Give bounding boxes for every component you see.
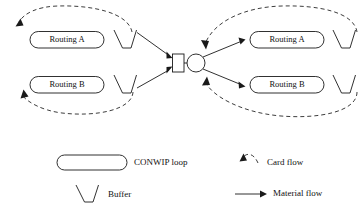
buffer-left-b xyxy=(114,75,137,93)
routing-node-left-b-label: Routing B xyxy=(49,79,85,89)
routing-node-left-b[interactable]: Routing B xyxy=(30,77,104,94)
buffer-left-a xyxy=(114,30,137,48)
routing-node-left-a-label: Routing A xyxy=(49,34,85,44)
material-flow-right-b xyxy=(203,69,246,89)
routing-node-left-a[interactable]: Routing A xyxy=(30,32,104,49)
legend-label-card-flow: Card flow xyxy=(267,157,304,167)
legend-symbol-conwip-loop xyxy=(57,155,127,170)
routing-node-right-b-label: Routing B xyxy=(269,79,305,89)
legend-label-conwip-loop: CONWIP loop xyxy=(134,157,188,167)
material-flow-left-a xyxy=(137,33,173,59)
material-flow-right-a xyxy=(203,38,246,58)
legend-item-conwip-loop: CONWIP loop xyxy=(57,155,188,170)
legend-item-buffer: Buffer xyxy=(76,185,131,202)
legend-label-material-flow: Material flow xyxy=(273,188,323,198)
legend-item-material-flow: Material flow xyxy=(235,188,323,198)
routing-node-right-a[interactable]: Routing A xyxy=(250,32,324,49)
card-flow-arc-left-top xyxy=(16,6,133,32)
buffer-right-a xyxy=(333,30,356,48)
routing-node-right-a-label: Routing A xyxy=(269,34,305,44)
material-flow-left-b xyxy=(137,67,173,89)
station-circle[interactable] xyxy=(187,54,205,72)
diagram-canvas: Routing A Routing B xyxy=(0,0,361,212)
legend-symbol-buffer xyxy=(76,185,99,202)
legend-item-card-flow: Card flow xyxy=(240,154,304,168)
machine-square[interactable] xyxy=(173,54,185,72)
legend-label-buffer: Buffer xyxy=(108,189,131,199)
conwip-diagram: Routing A Routing B xyxy=(0,0,361,212)
buffer-right-b xyxy=(333,75,356,93)
routing-node-right-b[interactable]: Routing B xyxy=(250,77,324,94)
